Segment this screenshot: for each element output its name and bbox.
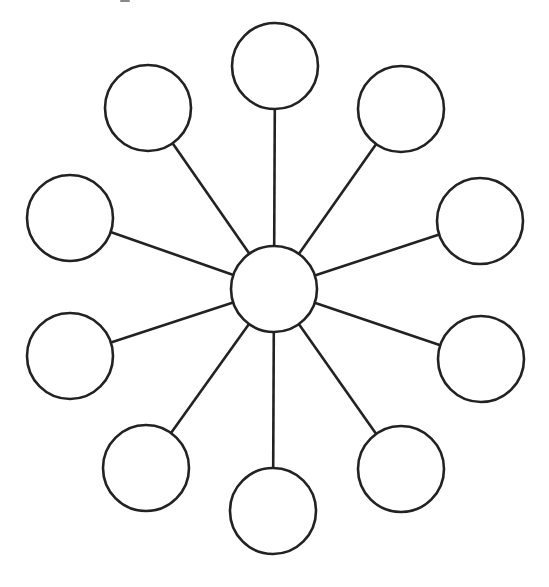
spoke-circle-right-upper: [437, 178, 523, 264]
spoke-circle-top-left: [105, 65, 191, 151]
spoke-circle-left-upper: [27, 175, 113, 261]
connector-line-top-right: [299, 144, 376, 254]
spoke-circle-bottom-left: [103, 425, 189, 511]
spoke-circle-left-lower: [27, 313, 113, 399]
spoke-circle-right-lower: [438, 316, 524, 402]
spoke-circle-bottom: [230, 468, 316, 554]
connector-line-top-left: [173, 143, 250, 253]
connector-line-left-upper: [111, 232, 234, 275]
connector-line-right-lower: [315, 303, 441, 345]
connector-line-right-upper: [315, 235, 439, 276]
spoke-circle-top-right: [358, 66, 444, 152]
hub-circle: [231, 246, 317, 332]
hub-spoke-diagram: [0, 0, 549, 587]
connector-line-bottom: [273, 332, 274, 468]
spoke-circle-top: [232, 23, 318, 109]
spoke-circle-bottom-right: [358, 426, 444, 512]
connector-line-top: [274, 109, 275, 246]
connector-line-bottom-left: [171, 324, 249, 433]
connector-line-bottom-right: [299, 324, 376, 434]
connector-line-left-lower: [111, 302, 233, 342]
circle-nodes: [27, 23, 524, 554]
